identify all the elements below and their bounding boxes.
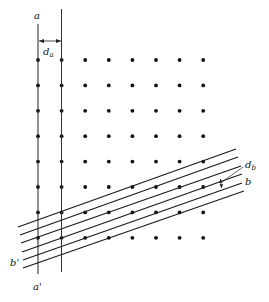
label-b-prime: b': [10, 257, 19, 268]
lattice-point: [107, 58, 111, 62]
lattice-point: [154, 236, 158, 240]
lattice-point: [178, 160, 182, 164]
lattice-point: [131, 84, 135, 88]
lattice-point: [201, 211, 205, 215]
label-a-prime: a': [33, 281, 42, 292]
lattice-point: [107, 185, 111, 189]
label-db: db: [245, 159, 256, 172]
lattice-point: [83, 185, 87, 189]
lattice-point: [131, 134, 135, 138]
lattice-point: [178, 236, 182, 240]
lattice-point: [178, 84, 182, 88]
lattice-point: [178, 109, 182, 113]
lattice-point: [107, 84, 111, 88]
lattice-point: [83, 109, 87, 113]
lattice-point: [178, 134, 182, 138]
da-spacing-arrow: [39, 39, 61, 43]
lattice-point: [83, 58, 87, 62]
lattice-point: [201, 236, 205, 240]
lattice-point: [107, 160, 111, 164]
lattice-point: [131, 109, 135, 113]
plane-b-lines: [18, 149, 244, 268]
label-b: b: [245, 176, 251, 187]
lattice-point: [131, 58, 135, 62]
lattice-point: [107, 109, 111, 113]
lattice-point: [131, 236, 135, 240]
lattice-point: [201, 109, 205, 113]
lattice-point: [154, 109, 158, 113]
lattice-point: [178, 58, 182, 62]
lattice-point: [154, 160, 158, 164]
lattice-point: [83, 84, 87, 88]
lattice-point: [201, 134, 205, 138]
lattice-point: [83, 134, 87, 138]
lattice-point: [154, 58, 158, 62]
lattice-point: [154, 134, 158, 138]
lattice-point: [201, 58, 205, 62]
label-da: da: [43, 46, 54, 59]
lattice-point: [154, 84, 158, 88]
plane-b-line: [21, 166, 241, 243]
lattice-diagram: a da a' db b b': [0, 0, 269, 302]
lattice-point: [131, 160, 135, 164]
label-a: a: [34, 10, 40, 21]
lattice-point: [83, 160, 87, 164]
lattice-point: [107, 134, 111, 138]
plane-b-line: [23, 191, 244, 268]
lattice-point: [201, 84, 205, 88]
